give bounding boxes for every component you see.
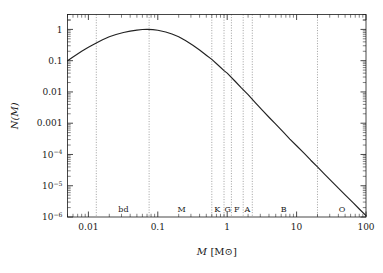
imf-curve [68, 29, 367, 215]
axis-ticks [68, 15, 367, 218]
imf-plot: 0.010.1110100 10.10.010.00110−410−510−6 … [0, 0, 383, 273]
x-tick-label-3: 10 [291, 222, 303, 232]
imf-figure: 0.010.1110100 10.10.010.00110−410−510−6 … [0, 0, 383, 273]
y-axis-tick-labels: 10.10.010.00110−410−510−6 [37, 25, 63, 223]
spectral-class-label-K: K [214, 205, 221, 214]
spectral-class-label-bd: bd [118, 205, 128, 214]
axes-frame [68, 15, 367, 218]
x-tick-label-4: 100 [357, 222, 374, 232]
y-tick-label-2: 0.01 [42, 87, 62, 97]
y-axis-title: N(M) [9, 102, 20, 130]
x-axis-tick-labels: 0.010.1110100 [78, 222, 374, 232]
spectral-class-label-F: F [234, 205, 240, 214]
spectral-class-label-G: G [225, 205, 231, 214]
spectral-boundary-gridlines [96, 15, 317, 218]
x-axis-title: M[M⊙] [196, 246, 237, 257]
y-tick-label-4: 10−4 [42, 148, 63, 159]
x-tick-label-0: 0.01 [78, 222, 98, 232]
spectral-class-label-M: M [177, 205, 185, 214]
x-tick-label-1: 0.1 [151, 222, 165, 232]
y-tick-label-5: 10−5 [42, 180, 63, 191]
spectral-class-label-O: O [339, 205, 346, 214]
spectral-class-label-A: A [243, 205, 250, 214]
x-tick-label-2: 1 [224, 222, 230, 232]
y-tick-label-0: 1 [57, 25, 63, 35]
plot-frame [68, 15, 367, 218]
y-tick-label-1: 0.1 [48, 56, 62, 66]
spectral-class-labels: bdMKGFABO [118, 205, 345, 214]
imf-curve-group [68, 29, 367, 215]
spectral-class-label-B: B [281, 205, 287, 214]
y-tick-label-6: 10−6 [42, 211, 63, 222]
y-tick-label-3: 0.001 [37, 118, 63, 128]
